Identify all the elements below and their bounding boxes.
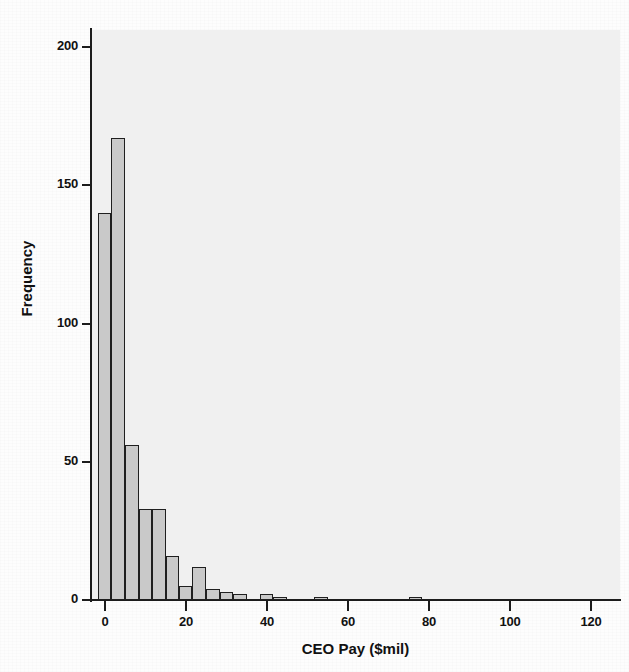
y-axis-tick bbox=[82, 461, 91, 463]
y-axis-tick-label: 200 bbox=[28, 38, 78, 53]
histogram-bar bbox=[409, 597, 422, 600]
histogram-bar bbox=[166, 556, 179, 600]
histogram-bar bbox=[220, 592, 233, 600]
x-axis-tick-label: 80 bbox=[422, 614, 436, 629]
x-axis-tick-label: 100 bbox=[499, 614, 520, 629]
x-axis-tick bbox=[509, 601, 511, 611]
y-axis-tick bbox=[82, 184, 91, 186]
x-axis-tick-label: 0 bbox=[101, 614, 108, 629]
y-axis-title: Frequency bbox=[18, 209, 35, 349]
histogram-bar bbox=[152, 509, 166, 600]
x-axis-tick bbox=[104, 601, 106, 611]
x-axis-title: CEO Pay ($mil) bbox=[90, 640, 621, 657]
x-axis-tick-label: 120 bbox=[580, 614, 601, 629]
histogram-bar bbox=[233, 594, 247, 600]
histogram-bar bbox=[273, 597, 287, 600]
histogram-bar bbox=[125, 445, 138, 600]
histogram-bar bbox=[206, 589, 219, 600]
x-axis-tick bbox=[590, 601, 592, 611]
histogram-bar bbox=[314, 597, 328, 600]
y-axis-tick bbox=[82, 599, 91, 601]
y-axis-tick-label: 50 bbox=[28, 453, 78, 468]
histogram-figure: 050100150200 020406080100120 Frequency C… bbox=[0, 0, 629, 672]
x-axis-tick bbox=[185, 601, 187, 611]
histogram-bar bbox=[111, 138, 125, 600]
y-axis-line bbox=[90, 28, 92, 602]
x-axis-tick-label: 40 bbox=[260, 614, 274, 629]
histogram-bar bbox=[139, 509, 152, 600]
y-axis-tick bbox=[82, 46, 91, 48]
histogram-bar bbox=[260, 594, 273, 600]
histogram-bar bbox=[179, 586, 192, 600]
y-axis-tick-label: 100 bbox=[28, 315, 78, 330]
histogram-bar bbox=[98, 213, 111, 600]
y-axis-tick-label: 150 bbox=[28, 176, 78, 191]
x-axis-tick bbox=[266, 601, 268, 611]
x-axis-tick-label: 60 bbox=[341, 614, 355, 629]
histogram-bar bbox=[192, 567, 206, 600]
y-axis-tick-label: 0 bbox=[28, 591, 78, 606]
x-axis-tick bbox=[347, 601, 349, 611]
plot-background bbox=[92, 30, 620, 600]
x-axis-tick-label: 20 bbox=[179, 614, 193, 629]
x-axis-tick bbox=[428, 601, 430, 611]
y-axis-tick bbox=[82, 323, 91, 325]
